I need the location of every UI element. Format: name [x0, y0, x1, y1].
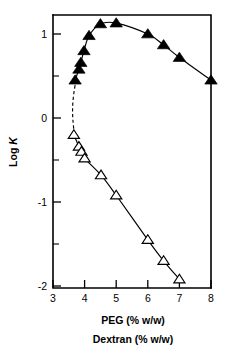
dextran-data-point-7	[158, 256, 169, 265]
peg-data-point-7	[142, 29, 154, 38]
x-axis-ticks	[53, 280, 211, 288]
peg-series-line	[75, 22, 211, 80]
y-tick-label--2: -2	[38, 280, 47, 292]
x-tick-label-5: 5	[113, 292, 119, 304]
y-axis-ticks	[53, 34, 61, 286]
x-tick-label-3: 3	[50, 292, 56, 304]
dextran-data-point-0	[68, 130, 79, 139]
x-axis-title-dextran: Dextran (% w/w)	[93, 333, 174, 345]
axis-frame-top-right	[53, 15, 211, 288]
svg-text:Log K: Log K	[7, 136, 19, 167]
y-axis-tick-labels: 1 0 -1 -2	[38, 28, 48, 292]
y-tick-label-1: 1	[41, 28, 47, 40]
x-axis-title-peg: PEG (% w/w)	[101, 314, 165, 326]
x-axis-tick-labels: 3 4 5 6 7 8	[50, 292, 214, 304]
peg-series-markers	[69, 18, 217, 84]
peg-data-point-5	[94, 19, 106, 28]
branch-connector-dashed-line	[73, 85, 76, 130]
data-layer	[68, 18, 217, 283]
x-tick-label-8: 8	[208, 292, 214, 304]
dextran-data-point-6	[142, 235, 153, 244]
y-axis-title-prefix: Log	[7, 145, 19, 167]
peg-data-point-10	[205, 75, 217, 84]
dextran-data-point-5	[111, 190, 122, 199]
x-tick-label-6: 6	[145, 292, 151, 304]
x-tick-label-4: 4	[82, 292, 88, 304]
y-tick-label-0: 0	[41, 112, 47, 124]
log-k-scatter-chart: 1 0 -1 -2 3 4 5 6 7 8 Log K	[0, 0, 244, 350]
dextran-series-markers	[68, 130, 185, 283]
y-axis-title: Log K	[7, 136, 19, 167]
plot-frame	[53, 15, 211, 288]
chart-figure: 1 0 -1 -2 3 4 5 6 7 8 Log K	[0, 0, 244, 350]
peg-data-point-4	[83, 30, 95, 39]
axis-spines	[53, 15, 211, 288]
peg-data-point-0	[69, 75, 81, 84]
y-tick-label--1: -1	[38, 196, 47, 208]
peg-data-point-2	[75, 57, 87, 66]
x-tick-label-7: 7	[176, 292, 182, 304]
y-axis-title-italic: K	[7, 136, 19, 145]
peg-data-point-3	[78, 45, 90, 54]
